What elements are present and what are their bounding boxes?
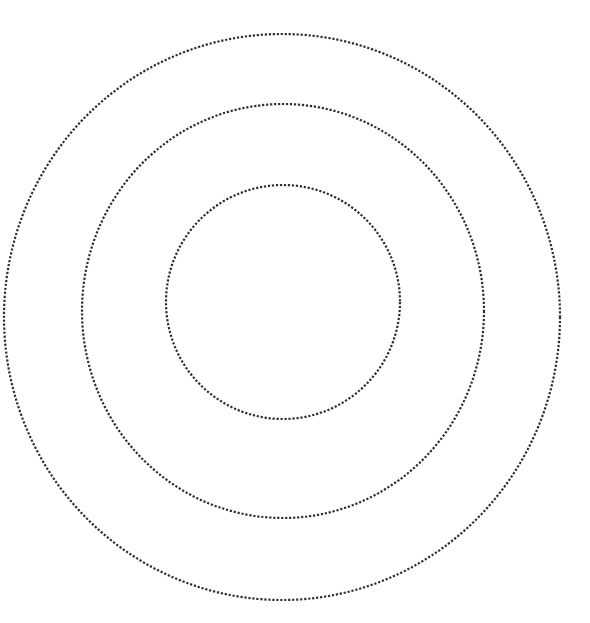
- middle-dotted-circle: [82, 104, 484, 518]
- concentric-circles-diagram: [0, 0, 590, 623]
- outer-dotted-circle: [4, 34, 560, 600]
- inner-dotted-circle: [166, 185, 400, 419]
